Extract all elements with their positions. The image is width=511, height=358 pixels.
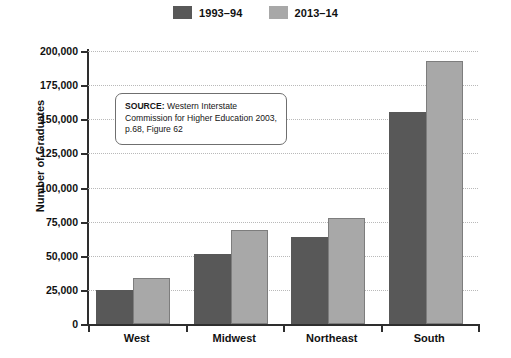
legend-swatch-dark-icon — [173, 6, 192, 19]
y-axis-tick-label: 75,000 — [46, 216, 78, 228]
y-axis-tick-label: 175,000 — [40, 79, 78, 91]
x-axis-label-northeast: Northeast — [306, 332, 357, 344]
bar-midwest-1993-94 — [194, 254, 231, 324]
legend-label-2013-14: 2013–14 — [295, 7, 339, 19]
bar-group-west — [88, 51, 186, 324]
source-note-prefix: SOURCE: — [125, 101, 165, 111]
bar-south-1993-94 — [389, 112, 426, 324]
x-axis-label-west: West — [124, 332, 150, 344]
y-axis-tick — [81, 153, 88, 155]
x-axis-tick — [283, 324, 285, 332]
source-note: SOURCE: Western Interstate Commission fo… — [115, 93, 287, 145]
y-axis-tick — [81, 222, 88, 224]
bar-group-midwest — [186, 51, 284, 324]
y-axis-labels: 025,00050,00075,000100,000125,000150,000… — [0, 0, 78, 358]
y-axis-tick-label: 100,000 — [40, 182, 78, 194]
bar-northeast-2013-14 — [328, 218, 365, 324]
legend-item-1993-94: 1993–94 — [173, 6, 243, 19]
y-axis-tick-label: 150,000 — [40, 113, 78, 125]
bar-midwest-2013-14 — [231, 230, 268, 324]
x-axis-tick — [478, 324, 480, 332]
y-axis-tick-label: 125,000 — [40, 147, 78, 159]
y-axis-tick — [81, 324, 88, 326]
y-axis-tick — [81, 85, 88, 87]
bar-south-2013-14 — [426, 61, 463, 324]
bar-chart: 1993–94 2013–14 Number of Graduates 025,… — [0, 0, 511, 358]
bar-west-2013-14 — [133, 278, 170, 324]
legend-item-2013-14: 2013–14 — [269, 6, 339, 19]
source-note-text: SOURCE: Western Interstate Commission fo… — [125, 101, 277, 136]
y-axis-tick — [81, 119, 88, 121]
y-axis-tick — [81, 188, 88, 190]
plot-area — [88, 51, 478, 324]
x-axis-tick-origin — [88, 324, 90, 332]
y-axis-tick-label: 0 — [72, 318, 78, 330]
legend-label-1993-94: 1993–94 — [199, 7, 243, 19]
bar-west-1993-94 — [96, 290, 133, 324]
y-axis-tick — [81, 256, 88, 258]
y-axis-tick-label: 200,000 — [40, 45, 78, 57]
y-axis-tick-label: 50,000 — [46, 250, 78, 262]
y-axis-tick-label: 25,000 — [46, 284, 78, 296]
x-axis-tick — [186, 324, 188, 332]
y-axis-tick — [81, 51, 88, 53]
x-axis-tick — [381, 324, 383, 332]
x-axis-label-south: South — [414, 332, 445, 344]
bar-northeast-1993-94 — [291, 237, 328, 324]
legend-swatch-light-icon — [269, 6, 288, 19]
bar-group-northeast — [283, 51, 381, 324]
y-axis-tick — [81, 290, 88, 292]
bar-group-south — [381, 51, 479, 324]
x-axis-label-midwest: Midwest — [213, 332, 256, 344]
